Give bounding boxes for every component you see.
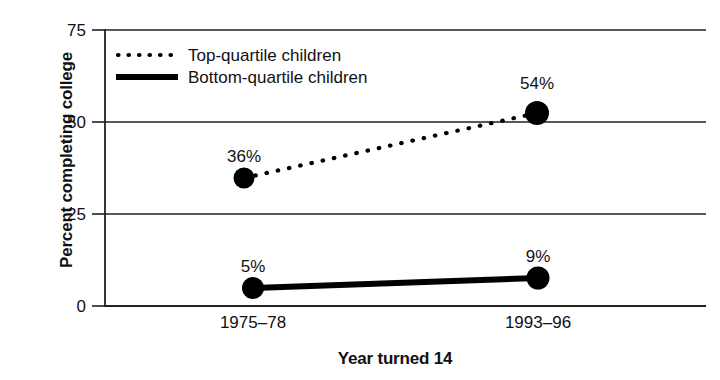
data-point-bottom-1993-96 — [527, 267, 550, 290]
chart-figure: 75 50 25 0 1975–78 1993–96 Percent compl… — [0, 0, 720, 380]
x-tick-label-1993-96: 1993–96 — [458, 314, 618, 331]
x-axis-title: Year turned 14 — [245, 349, 545, 369]
data-label-bottom-1975-78: 5% — [208, 258, 298, 275]
x-tick-label-1975-78: 1975–78 — [173, 314, 333, 331]
y-tick-marks — [92, 30, 105, 306]
data-label-top-1993-96: 54% — [492, 75, 582, 92]
series-top-quartile — [234, 101, 550, 189]
series-bottom-quartile-line — [253, 278, 538, 288]
data-label-top-1975-78: 36% — [199, 148, 289, 165]
legend-label-top-quartile: Top-quartile children — [188, 47, 341, 64]
y-axis-title: Percent completing college — [57, 10, 77, 310]
data-label-bottom-1993-96: 9% — [493, 248, 583, 265]
legend-label-bottom-quartile: Bottom-quartile children — [188, 69, 368, 86]
legend — [116, 55, 178, 77]
data-point-bottom-1975-78 — [242, 277, 264, 299]
data-point-top-1975-78 — [234, 168, 255, 189]
data-point-top-1993-96 — [525, 101, 549, 125]
